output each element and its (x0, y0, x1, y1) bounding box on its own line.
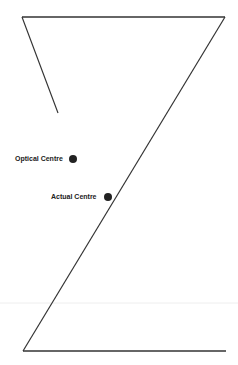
left-diagonal-line (22, 17, 58, 113)
optical-centre-dot (69, 155, 77, 163)
z-shape-diagram (0, 0, 238, 365)
main-diagonal-line (23, 17, 225, 351)
optical-centre-label: Optical Centre (15, 155, 63, 162)
actual-centre-dot (104, 193, 112, 201)
actual-centre-label: Actual Centre (51, 193, 97, 200)
